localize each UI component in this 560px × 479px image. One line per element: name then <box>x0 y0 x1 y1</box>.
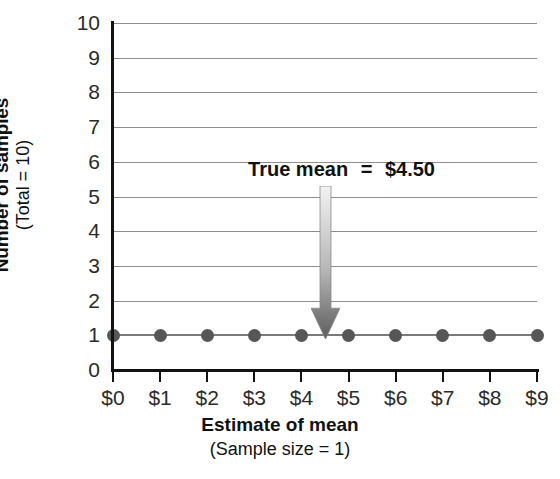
data-point-marker <box>248 329 261 342</box>
x-tick-4 <box>300 371 302 382</box>
data-point-marker <box>342 329 355 342</box>
x-tick-label-9: $9 <box>509 387 560 408</box>
true-mean-annotation-value: $4.50 <box>385 158 435 180</box>
y-axis-title-subtitle: (Total = 10) <box>14 75 34 295</box>
x-tick-5 <box>348 371 350 382</box>
x-axis-title-main: Estimate of mean <box>0 414 560 436</box>
y-tick-label-2: 2 <box>66 290 100 311</box>
y-axis-spine <box>111 21 114 372</box>
gridline-y-9 <box>113 58 537 59</box>
data-point-marker <box>295 329 308 342</box>
x-tick-1 <box>159 371 161 382</box>
y-tick-label-9: 9 <box>66 47 100 68</box>
y-tick-label-4: 4 <box>66 220 100 241</box>
true-mean-annotation-prefix: True mean <box>248 158 348 180</box>
y-tick-label-5: 5 <box>66 186 100 207</box>
x-tick-2 <box>206 371 208 382</box>
x-tick-8 <box>489 371 491 382</box>
data-point-marker <box>389 329 402 342</box>
y-axis-title-main: Number of samples <box>0 75 13 295</box>
y-tick-label-8: 8 <box>66 81 100 102</box>
gridline-y-8 <box>113 92 537 93</box>
x-axis-spine <box>111 369 539 372</box>
y-tick-label-10: 10 <box>66 12 100 33</box>
y-tick-label-3: 3 <box>66 255 100 276</box>
true-mean-arrow-icon <box>311 186 340 343</box>
y-axis-title: Number of samples (Total = 10) <box>0 75 52 295</box>
gridline-y-10 <box>113 23 537 24</box>
data-point-marker <box>531 329 544 342</box>
x-tick-3 <box>253 371 255 382</box>
x-tick-0 <box>112 371 114 382</box>
y-tick-label-0: 0 <box>66 359 100 380</box>
true-mean-annotation-equals: = <box>361 158 373 180</box>
y-tick-label-1: 1 <box>66 324 100 345</box>
y-tick-label-7: 7 <box>66 116 100 137</box>
data-point-marker <box>436 329 449 342</box>
x-tick-7 <box>442 371 444 382</box>
data-point-marker <box>201 329 214 342</box>
data-point-marker <box>483 329 496 342</box>
x-tick-9 <box>536 371 538 382</box>
gridline-y-7 <box>113 127 537 128</box>
true-mean-annotation-label: True mean = $4.50 <box>0 159 435 179</box>
x-axis-title: Estimate of mean (Sample size = 1) <box>0 414 560 460</box>
chart-figure: Number of samples (Total = 10) 109876543… <box>0 0 560 479</box>
data-point-marker <box>154 329 167 342</box>
x-tick-6 <box>395 371 397 382</box>
x-axis-title-subtitle: (Sample size = 1) <box>0 439 560 460</box>
